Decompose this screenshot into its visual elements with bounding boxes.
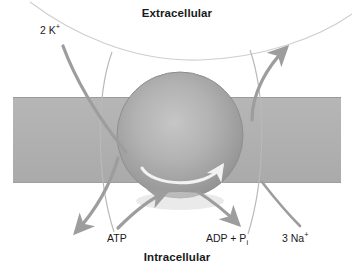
sodium-label: 3 Na+ (282, 231, 309, 243)
extracellular-label: Extracellular (0, 8, 354, 20)
adp-subscript: i (246, 238, 248, 247)
sodium-influx-path (262, 182, 300, 226)
potassium-count: 2 K (40, 24, 56, 36)
adp-label: ADP + Pi (206, 233, 248, 247)
adp-text: ADP + P (206, 232, 246, 244)
potassium-label: 2 K+ (40, 23, 60, 35)
pump-protein-sphere (117, 72, 243, 198)
potassium-charge: + (56, 22, 60, 31)
figure-canvas: Extracellular Intracellular 2 K+ ATP ADP… (0, 0, 354, 274)
intracellular-label: Intracellular (0, 252, 354, 264)
atp-label: ATP (107, 233, 127, 244)
sodium-count: 3 Na (282, 232, 304, 244)
sodium-charge: + (304, 230, 308, 239)
